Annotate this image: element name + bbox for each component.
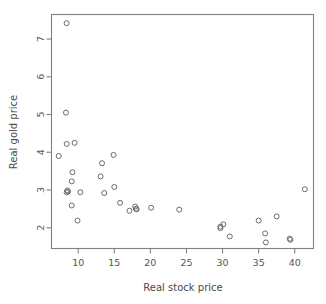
data-point [149,205,154,210]
data-point [56,154,61,159]
data-point [69,203,74,208]
data-point [302,187,307,192]
data-point [111,152,116,157]
data-point [177,207,182,212]
data-point [100,161,105,166]
data-point [263,240,268,245]
data-point [102,191,107,196]
x-tick-label: 40 [289,257,301,268]
data-point [274,214,279,219]
data-point [78,190,83,195]
data-point [112,184,117,189]
y-tick-label: 2 [35,225,46,231]
data-point [64,141,69,146]
data-point [98,174,103,179]
chart-canvas: 10152025303540 234567 Real stock price R… [0,0,326,304]
y-tick-label: 7 [35,36,46,42]
data-point [227,234,232,239]
data-point [127,208,132,213]
x-axis-title: Real stock price [143,282,222,293]
data-point [64,21,69,26]
scatter-plot-figure: 10152025303540 234567 Real stock price R… [0,0,326,304]
y-tick-label: 6 [35,74,46,80]
data-point [256,218,261,223]
plot-frame [52,15,314,249]
y-tick-label: 5 [35,111,46,117]
x-tick-label: 25 [180,257,192,268]
x-tick-label: 30 [217,257,229,268]
data-points-layer [56,21,307,245]
data-point [70,170,75,175]
data-point [75,218,80,223]
x-axis-ticks: 10152025303540 [72,249,301,268]
data-point [69,179,74,184]
y-axis-title: Real gold price [8,95,19,169]
x-tick-label: 20 [144,257,156,268]
y-tick-label: 3 [35,187,46,193]
x-tick-label: 10 [72,257,84,268]
data-point [63,110,68,115]
x-tick-label: 15 [108,257,120,268]
data-point [263,231,268,236]
y-tick-label: 4 [35,149,46,155]
x-tick-label: 35 [253,257,265,268]
data-point [118,200,123,205]
data-point [72,140,77,145]
y-axis-ticks: 234567 [35,36,52,231]
